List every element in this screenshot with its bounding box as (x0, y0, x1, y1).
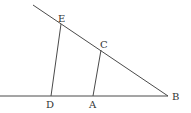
segment-ca (93, 50, 101, 96)
segment-ed (51, 24, 61, 96)
label-a: A (88, 99, 97, 110)
label-b: B (172, 91, 179, 102)
geometry-figure: E C B D A (0, 0, 191, 113)
label-e: E (58, 13, 65, 24)
label-c: C (100, 39, 108, 50)
label-d: D (46, 99, 54, 110)
